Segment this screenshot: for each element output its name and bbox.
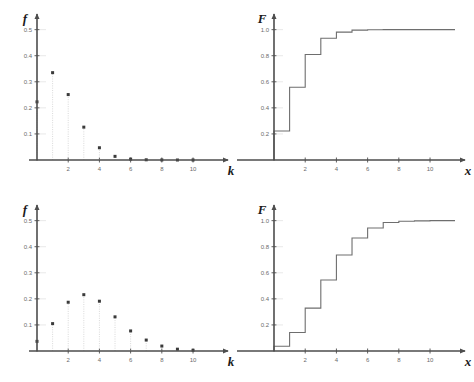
x-tick-label: 6 (366, 357, 370, 363)
panel-bottom-left: 0.10.20.30.40.5246810fk (0, 191, 237, 382)
data-point (51, 71, 54, 74)
figure-grid: 0.10.20.30.40.5246810fk 0.20.40.60.81.02… (0, 0, 474, 382)
x-tick-label: 2 (67, 166, 71, 172)
y-tick-label: 0.6 (261, 270, 270, 276)
y-tick-label: 0.4 (24, 53, 33, 59)
data-point (98, 146, 101, 149)
y-tick-label: 0.3 (24, 79, 33, 85)
x-tick-label: 10 (427, 357, 434, 363)
x-tick-label: 10 (190, 166, 197, 172)
y-tick-label: 0.8 (261, 53, 270, 59)
y-tick-label: 0.4 (24, 244, 33, 250)
x-tick-label: 2 (304, 166, 308, 172)
x-tick-label: 4 (98, 166, 102, 172)
y-axis-label: F (257, 202, 267, 217)
x-axis-label: k (228, 354, 235, 369)
y-tick-label: 0.1 (24, 131, 33, 137)
x-tick-label: 4 (335, 166, 339, 172)
y-tick-label: 0.8 (261, 244, 270, 250)
y-tick-label: 0.2 (24, 296, 33, 302)
x-tick-label: 6 (366, 166, 370, 172)
step-curve (274, 30, 455, 160)
y-tick-label: 0.1 (24, 322, 33, 328)
x-tick-label: 8 (160, 166, 164, 172)
x-tick-label: 6 (129, 357, 133, 363)
y-tick-label: 0.2 (261, 322, 270, 328)
data-layer (36, 71, 195, 161)
x-tick-label: 10 (190, 357, 197, 363)
plot-top-left: 0.10.20.30.40.5246810fk (0, 0, 237, 191)
y-tick-label: 0.2 (261, 131, 270, 137)
y-axis-label: F (257, 11, 267, 26)
x-tick-label: 8 (397, 357, 401, 363)
data-point (145, 339, 148, 342)
data-point (114, 155, 117, 158)
x-tick-label: 4 (98, 357, 102, 363)
y-tick-label: 0.4 (261, 296, 270, 302)
data-point (67, 301, 70, 304)
panel-top-right: 0.20.40.60.81.0246810Fx (237, 0, 474, 191)
y-tick-label: 0.5 (24, 27, 33, 33)
y-tick-label: 1.0 (261, 218, 270, 224)
y-tick-label: 0.5 (24, 218, 33, 224)
data-point (98, 300, 101, 303)
data-point (129, 329, 132, 332)
data-point (82, 126, 85, 129)
data-point (82, 293, 85, 296)
y-ticks: 0.10.20.30.40.5 (24, 218, 46, 328)
y-ticks: 0.10.20.30.40.5 (24, 27, 46, 137)
x-tick-label: 8 (160, 357, 164, 363)
y-ticks: 0.20.40.60.81.0 (261, 218, 283, 328)
data-point (51, 322, 54, 325)
y-ticks: 0.20.40.60.81.0 (261, 27, 283, 137)
panel-bottom-right: 0.20.40.60.81.0246810Fx (237, 191, 474, 382)
plot-bottom-left: 0.10.20.30.40.5246810fk (0, 191, 237, 382)
plot-bottom-right: 0.20.40.60.81.0246810Fx (237, 191, 474, 382)
y-axis-label: f (23, 11, 29, 26)
x-tick-label: 8 (397, 166, 401, 172)
panel-top-left: 0.10.20.30.40.5246810fk (0, 0, 237, 191)
y-tick-label: 0.6 (261, 79, 270, 85)
data-layer (274, 30, 455, 160)
x-tick-label: 2 (304, 357, 308, 363)
x-axis-label: x (464, 163, 472, 178)
data-point (67, 93, 70, 96)
x-tick-label: 10 (427, 166, 434, 172)
x-axis-label: k (228, 163, 235, 178)
y-tick-label: 0.2 (24, 105, 33, 111)
y-tick-label: 1.0 (261, 27, 270, 33)
x-tick-label: 6 (129, 166, 133, 172)
data-point (114, 315, 117, 318)
step-curve (274, 221, 455, 351)
data-point (160, 345, 163, 348)
x-axis-label: x (464, 354, 472, 369)
data-layer (274, 221, 455, 351)
x-tick-label: 2 (67, 357, 71, 363)
plot-top-right: 0.20.40.60.81.0246810Fx (237, 0, 474, 191)
y-tick-label: 0.3 (24, 270, 33, 276)
y-tick-label: 0.4 (261, 105, 270, 111)
y-axis-label: f (23, 202, 29, 217)
x-tick-label: 4 (335, 357, 339, 363)
data-layer (36, 293, 195, 352)
